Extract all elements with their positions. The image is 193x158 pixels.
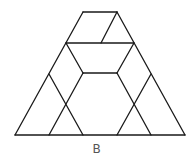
figure-line	[101, 12, 117, 43]
figure-diagram	[0, 0, 193, 158]
figure-line	[66, 43, 83, 73]
figure-line	[117, 43, 134, 73]
figure-label: B	[0, 142, 193, 156]
